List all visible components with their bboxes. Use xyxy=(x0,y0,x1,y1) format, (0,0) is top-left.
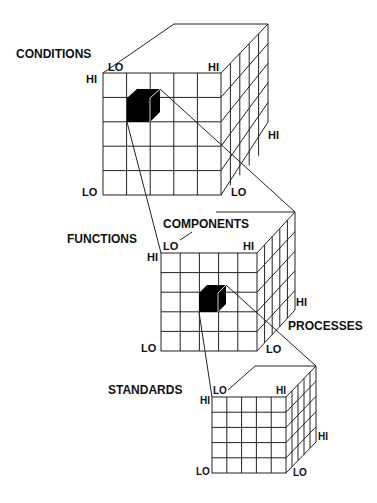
label-lo: LO xyxy=(108,61,124,73)
cube-functions xyxy=(161,212,295,351)
label-lo: LO xyxy=(293,467,307,478)
label-lo: LO xyxy=(163,240,179,252)
label-lo: LO xyxy=(266,343,282,355)
label-hi: HI xyxy=(276,385,286,396)
cube-standards xyxy=(212,366,316,473)
label-hi: HI xyxy=(208,61,219,73)
label-hi: HI xyxy=(318,431,328,442)
connector-line xyxy=(160,89,295,212)
axis-label-standards: STANDARDS xyxy=(108,383,182,397)
label-hi: HI xyxy=(200,395,210,406)
label-lo: LO xyxy=(231,186,247,198)
connector-line xyxy=(199,312,212,397)
cube-conditions xyxy=(103,24,268,195)
label-lo: LO xyxy=(141,342,157,354)
label-hi: HI xyxy=(86,73,97,85)
label-lo: LO xyxy=(82,186,98,198)
label-hi: HI xyxy=(296,296,307,308)
label-hi: HI xyxy=(243,240,254,252)
label-lo: LO xyxy=(213,385,227,396)
axis-label-conditions: CONDITIONS xyxy=(16,47,91,61)
axis-label-components: COMPONENTS xyxy=(163,217,249,231)
label-hi: HI xyxy=(268,129,279,141)
axis-label-processes: PROCESSES xyxy=(288,319,363,333)
labels: CONDITIONS LO HI HI HI LO LO COMPONENTS … xyxy=(16,47,363,478)
axis-label-functions: FUNCTIONS xyxy=(67,232,137,246)
label-hi: HI xyxy=(147,251,158,263)
nested-cubes-diagram: CONDITIONS LO HI HI HI LO LO COMPONENTS … xyxy=(0,0,377,503)
label-lo: LO xyxy=(196,466,210,477)
